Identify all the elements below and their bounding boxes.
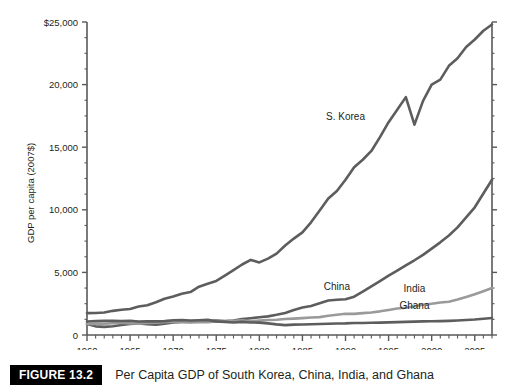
x-tick-label: 1970: [163, 345, 184, 350]
line-chart-svg: 05,00010,00015,00020,000$25,000 19601965…: [0, 0, 514, 350]
series-line-s-korea: [87, 25, 492, 314]
y-tick-label: 5,000: [54, 267, 78, 278]
x-tick-label: 1975: [206, 345, 227, 350]
x-tick-label: 1985: [292, 345, 313, 350]
x-axis-tick-labels: 1960196519701975198019851990199520002005: [76, 345, 485, 350]
y-tick-label: 10,000: [49, 204, 78, 215]
chart-plot-area: 05,00010,00015,00020,000$25,000 19601965…: [0, 0, 514, 350]
x-tick-label: 1995: [378, 345, 399, 350]
y-axis-title: GDP per capita (2007$): [25, 143, 36, 243]
x-tick-label: 1965: [120, 345, 141, 350]
y-tick-label: 15,000: [49, 142, 78, 153]
figure-caption-text: Per Capita GDP of South Korea, China, In…: [115, 368, 434, 382]
x-tick-label: 1990: [335, 345, 356, 350]
x-tick-label: 1960: [76, 345, 97, 350]
series-label-s-korea: S. Korea: [326, 111, 365, 122]
series-label-ghana: Ghana: [399, 300, 429, 311]
figure-container: 05,00010,00015,00020,000$25,000 19601965…: [0, 0, 514, 389]
series-label-china: China: [324, 281, 351, 292]
y-tick-label: 20,000: [49, 79, 78, 90]
x-tick-label: 2000: [421, 345, 442, 350]
x-tick-label: 2005: [464, 345, 485, 350]
figure-number-badge: FIGURE 13.2: [10, 365, 102, 385]
y-axis-tick-labels: 05,00010,00015,00020,000$25,000: [44, 17, 78, 341]
x-tick-label: 1980: [249, 345, 270, 350]
chart-series-lines: [87, 25, 492, 327]
figure-caption-row: FIGURE 13.2 Per Capita GDP of South Kore…: [0, 360, 514, 389]
y-tick-label: 0: [73, 330, 78, 341]
y-tick-label: $25,000: [44, 17, 78, 28]
series-label-india: India: [404, 283, 426, 294]
chart-axes: [82, 22, 497, 341]
